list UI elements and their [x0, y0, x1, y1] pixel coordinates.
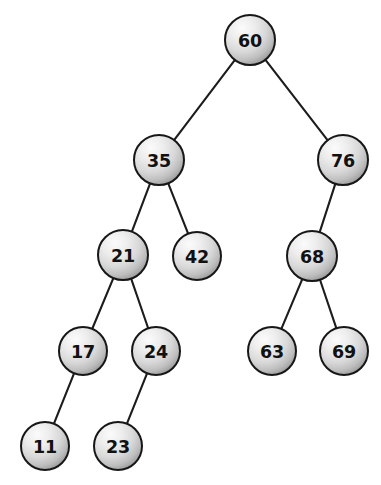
node-label: 76	[331, 151, 355, 171]
nodes-layer: 603576214268172463691123	[21, 15, 368, 470]
node-label: 60	[238, 31, 262, 51]
tree-edge	[132, 182, 151, 232]
node-label: 35	[147, 151, 171, 171]
tree-node[interactable]: 69	[320, 327, 368, 375]
node-label: 23	[106, 437, 130, 457]
tree-edge	[265, 59, 329, 141]
node-label: 63	[260, 342, 284, 362]
tree-edge	[320, 279, 337, 329]
node-label: 69	[332, 342, 356, 362]
tree-edge	[319, 183, 335, 233]
tree-node[interactable]: 17	[59, 327, 107, 375]
tree-edge	[92, 277, 114, 330]
tree-edge	[168, 182, 189, 234]
tree-node[interactable]: 23	[94, 422, 142, 470]
tree-node[interactable]: 68	[287, 231, 337, 281]
tree-node[interactable]: 76	[318, 135, 368, 185]
tree-edge	[54, 372, 75, 424]
tree-node[interactable]: 60	[225, 15, 275, 65]
tree-node[interactable]: 11	[21, 422, 69, 470]
node-label: 11	[33, 437, 57, 457]
binary-search-tree-figure: 603576214268172463691123	[0, 0, 381, 485]
tree-edge	[174, 59, 236, 141]
tree-node[interactable]: 24	[132, 327, 180, 375]
tree-edge	[281, 278, 303, 330]
node-label: 68	[300, 247, 324, 267]
tree-edge	[131, 278, 149, 330]
node-label: 42	[185, 247, 209, 267]
node-label: 21	[111, 246, 135, 266]
node-label: 24	[144, 342, 168, 362]
node-label: 17	[71, 342, 95, 362]
tree-node[interactable]: 63	[248, 327, 296, 375]
tree-canvas: 603576214268172463691123	[0, 0, 381, 485]
tree-node[interactable]: 42	[173, 232, 221, 280]
tree-node[interactable]: 21	[98, 230, 148, 280]
tree-node[interactable]: 35	[134, 135, 184, 185]
tree-edge	[127, 372, 148, 424]
